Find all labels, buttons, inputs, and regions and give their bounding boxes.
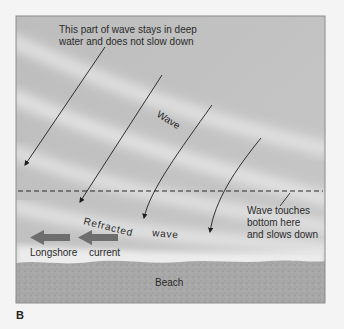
deep-water-label-line1: This part of wave stays in deep <box>59 24 197 35</box>
wave-refraction-diagram: This part of wave stays in deep water an… <box>0 0 344 329</box>
deep-water-label-line2: water and does not slow down <box>58 36 194 47</box>
touch-bottom-label-line1: Wave touches <box>247 205 310 216</box>
touch-bottom-label-line3: and slows down <box>247 229 318 240</box>
beach-label: Beach <box>155 277 183 288</box>
water-area <box>10 16 330 303</box>
touch-bottom-label-line2: bottom here <box>247 217 301 228</box>
panel-label: B <box>16 309 24 321</box>
current-label: current <box>89 247 120 258</box>
longshore-label: Longshore <box>30 247 78 258</box>
